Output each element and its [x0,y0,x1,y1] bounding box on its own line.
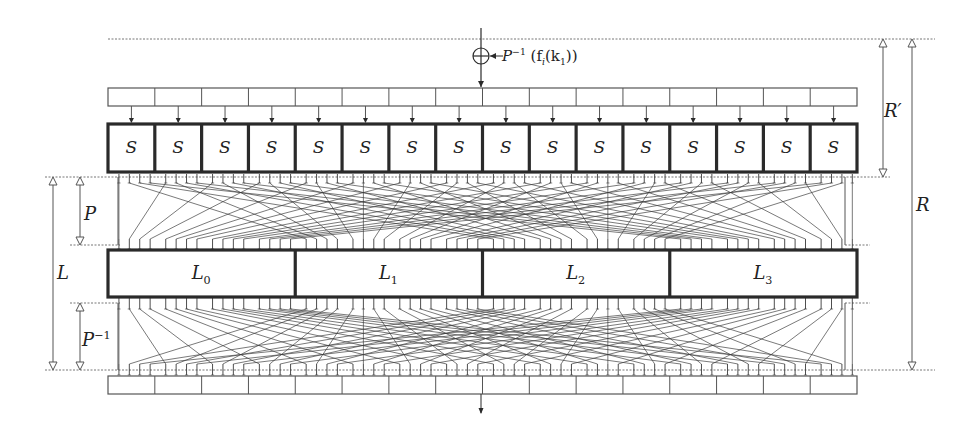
linear-box-1: L1 [379,264,398,286]
key-addition-label: P−1 (fi(k1)) [502,47,578,66]
sbox-2: S [219,139,231,156]
sbox-6: S [406,139,418,156]
linear-box-label: L [566,262,578,283]
sbox-1: S [172,139,184,156]
sbox-input-arrows [129,106,836,123]
dim-label-p-inv-main: P [82,329,94,350]
sbox-13: S [734,139,746,156]
dim-label-p-inv: P−1 [82,330,111,349]
linear-box-index: 3 [765,274,772,287]
sbox-11: S [640,139,652,156]
state-bar-top [108,88,857,106]
linear-layer [108,250,857,297]
linear-box-index: 1 [391,274,398,287]
dim-label-l: L [57,264,69,282]
dim-label-r: R [916,196,930,214]
sbox-4: S [313,139,325,156]
sbox-15: S [828,139,840,156]
linear-box-label: L [379,262,391,283]
dim-label-p: P [84,205,96,223]
key-label-close: )) [566,47,578,65]
state-bar-bottom [108,376,857,414]
dim-label-p-inv-sup: −1 [94,329,110,342]
key-label-sup: −1 [512,46,526,57]
sbox-0: S [125,139,137,156]
sbox-5: S [359,139,371,156]
permutation-wires [119,183,852,239]
inverse-permutation-wires [119,309,852,364]
spn-round-diagram [0,0,962,428]
linear-box-label: L [192,262,204,283]
sbox-14: S [781,139,793,156]
sbox-10: S [594,139,606,156]
linear-box-2: L2 [566,264,585,286]
sbox-7: S [453,139,465,156]
sbox-8: S [500,139,512,156]
dim-label-r-prime: R′ [884,102,902,120]
key-label-args: (f [531,47,542,65]
linear-box-0: L0 [192,264,211,286]
key-addition [473,28,503,87]
linear-box-index: 0 [204,274,211,287]
sbox-12: S [687,139,699,156]
sbox-9: S [547,139,559,156]
linear-box-index: 2 [578,274,585,287]
sbox-3: S [266,139,278,156]
linear-box-3: L3 [753,264,772,286]
key-label-p: P [502,47,512,65]
linear-box-label: L [753,262,765,283]
key-label-args2: (k [545,47,560,65]
